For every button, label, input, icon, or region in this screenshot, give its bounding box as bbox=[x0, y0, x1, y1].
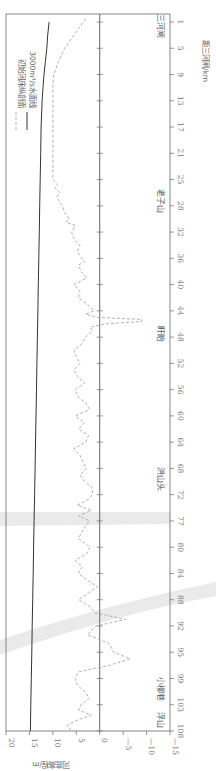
x-tick-label: 68 bbox=[176, 464, 185, 474]
x-tick-label: 84 bbox=[176, 569, 185, 579]
x-tick-label: 36 bbox=[176, 254, 185, 264]
x-tick-label: 99 bbox=[176, 674, 185, 684]
y-tick-label: 10 bbox=[53, 738, 62, 748]
x-tick-label: 108 bbox=[176, 724, 185, 739]
y-axis-label: 河底高程/m bbox=[32, 760, 70, 770]
legend: 初始河床纵剖面 3000m³/s水面线 bbox=[16, 51, 38, 130]
x-tick-label: 88 bbox=[176, 595, 185, 605]
x-tick-label: 48 bbox=[176, 332, 185, 342]
x-axis-label: 距三河闸/km bbox=[201, 40, 210, 82]
profile-chart: 1591317212528323640444852566064687277808… bbox=[0, 0, 216, 771]
x-tick-label: 64 bbox=[176, 437, 185, 447]
x-tick-label: 9 bbox=[176, 72, 185, 77]
x-tick-label: 13 bbox=[176, 96, 185, 106]
legend-label-bed: 初始河床纵剖面 bbox=[17, 59, 27, 109]
y-tick-label: 0 bbox=[100, 738, 109, 743]
x-tick-label: 28 bbox=[176, 201, 185, 211]
x-tick-label: 80 bbox=[176, 542, 185, 552]
x-tick-label: 25 bbox=[176, 175, 185, 185]
y-tick-label: —5 bbox=[124, 738, 133, 751]
plot-area: 1591317212528323640444852566064687277808… bbox=[6, 14, 185, 755]
x-tick-label: 60 bbox=[176, 411, 185, 421]
x-tick-label: 44 bbox=[176, 306, 185, 316]
y-tick-label: 15 bbox=[30, 738, 39, 748]
x-tick-label: 5 bbox=[176, 46, 185, 51]
y-tick-label: 20 bbox=[7, 738, 16, 748]
x-tick-label: 77 bbox=[176, 516, 185, 526]
place-annotation: 小柳巷 bbox=[156, 677, 166, 701]
x-tick-label: 52 bbox=[176, 359, 185, 369]
place-annotation: 洪山头 bbox=[156, 467, 166, 491]
scan-band-1 bbox=[0, 512, 170, 526]
place-annotation: 浮山 bbox=[156, 712, 166, 728]
x-tick-label: 92 bbox=[176, 621, 185, 631]
y-tick-label: 5 bbox=[77, 738, 86, 743]
legend-label-water: 3000m³/s水面线 bbox=[28, 51, 38, 109]
place-annotation: 三河闸 bbox=[156, 14, 166, 38]
x-tick-label: 21 bbox=[176, 149, 185, 159]
x-tick-label: 95 bbox=[176, 647, 185, 657]
y-tick-label: —10 bbox=[147, 738, 156, 755]
x-tick-label: 56 bbox=[176, 385, 185, 395]
x-tick-label: 32 bbox=[176, 227, 185, 237]
x-tick-label: 17 bbox=[176, 122, 185, 132]
x-tick-label: 40 bbox=[176, 280, 185, 290]
x-tick-label: 1 bbox=[176, 20, 185, 25]
water-surface-line bbox=[30, 22, 49, 731]
y-tick-label: —15 bbox=[171, 738, 180, 755]
x-tick-label: 72 bbox=[176, 490, 185, 500]
place-annotation: 老子山 bbox=[156, 189, 166, 213]
place-annotation: 盱眙 bbox=[156, 326, 166, 342]
x-tick-label: 103 bbox=[176, 698, 185, 713]
